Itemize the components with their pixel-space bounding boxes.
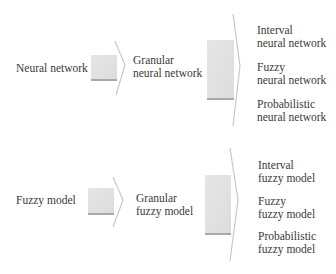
source-text: Fuzzy model — [16, 194, 76, 207]
output-line-1: Probabilistic — [258, 230, 316, 243]
output-label-fuzzy-neural-network: Fuzzy neural network — [257, 61, 326, 87]
granular-line-2: neural network — [133, 67, 202, 80]
output-line-1: Interval — [258, 159, 315, 172]
source-label-fuzzy-model: Fuzzy model — [16, 194, 76, 207]
output-line-2: fuzzy model — [258, 208, 315, 221]
output-label-probabilistic-neural-network: Probabilistic neural network — [257, 98, 326, 124]
granular-line-1: Granular — [133, 54, 202, 67]
granular-line-2: fuzzy model — [136, 205, 193, 218]
arrow-icon-row2-small — [88, 177, 123, 227]
granular-line-1: Granular — [136, 192, 193, 205]
arrow-icon-row1-small — [91, 41, 125, 95]
output-line-2: fuzzy model — [258, 243, 316, 256]
output-line-1: Interval — [257, 24, 326, 37]
output-line-2: fuzzy model — [258, 172, 315, 185]
granular-label-fuzzy-model: Granular fuzzy model — [136, 192, 193, 218]
source-text: Neural network — [16, 62, 88, 75]
arrow-icon-row1-large — [207, 14, 240, 126]
output-line-1: Fuzzy — [258, 195, 315, 208]
source-label-neural-network: Neural network — [16, 62, 88, 75]
output-label-interval-neural-network: Interval neural network — [257, 24, 326, 50]
output-line-1: Probabilistic — [257, 98, 326, 111]
output-label-fuzzy-fuzzy-model: Fuzzy fuzzy model — [258, 195, 315, 221]
output-line-1: Fuzzy — [257, 61, 326, 74]
granular-models-diagram: Neural network Granular neural network I… — [0, 0, 336, 274]
output-label-probabilistic-fuzzy-model: Probabilistic fuzzy model — [258, 230, 316, 256]
output-line-2: neural network — [257, 37, 326, 50]
arrow-icon-row2-large — [205, 148, 238, 261]
granular-label-neural-network: Granular neural network — [133, 54, 202, 80]
output-line-2: neural network — [257, 74, 326, 87]
output-label-interval-fuzzy-model: Interval fuzzy model — [258, 159, 315, 185]
output-line-2: neural network — [257, 111, 326, 124]
